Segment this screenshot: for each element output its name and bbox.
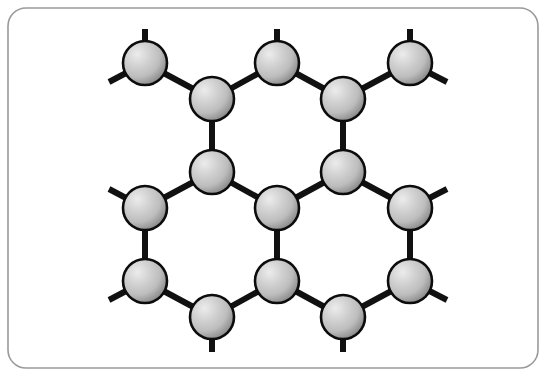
atom-lower-left xyxy=(123,259,167,303)
atom-bottom-left xyxy=(190,295,234,339)
hexagonal-lattice-canvas xyxy=(0,0,546,376)
atom-mid-right xyxy=(388,186,432,230)
atom-lower-center xyxy=(255,259,299,303)
atom-top-left xyxy=(123,41,167,85)
atom-top-right xyxy=(388,41,432,85)
atom-upper-left-inner xyxy=(190,77,234,121)
atom-mid-upper-left xyxy=(190,150,234,194)
atom-bottom-right xyxy=(321,295,365,339)
atom-lower-right xyxy=(388,259,432,303)
atom-mid-upper-right xyxy=(321,150,365,194)
atom-mid-center xyxy=(255,186,299,230)
atom-upper-right-inner xyxy=(321,77,365,121)
molecular-structure-figure xyxy=(0,0,546,376)
atom-mid-left xyxy=(123,186,167,230)
atom-top-center xyxy=(255,41,299,85)
